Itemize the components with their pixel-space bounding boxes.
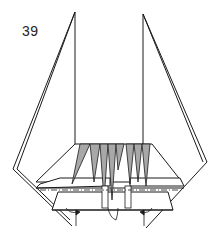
fold-arrows [66,208,152,226]
origami-diagram [0,0,224,238]
